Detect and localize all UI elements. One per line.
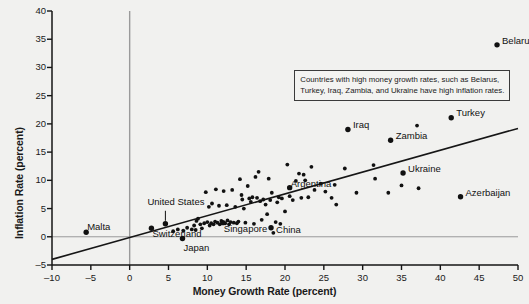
point-label-belarus: Belarus (502, 35, 529, 46)
data-point-33 (233, 205, 237, 209)
data-point-20 (214, 187, 218, 191)
y-tick-label-0: 0 (18, 231, 46, 242)
point-label-argentina: Argentina (291, 178, 332, 189)
data-point-73 (310, 165, 314, 169)
data-point-31 (230, 188, 234, 192)
point-label-malta: Malta (87, 221, 110, 232)
data-point-77 (330, 196, 334, 200)
data-point-53 (265, 212, 269, 216)
data-point-87 (417, 186, 421, 190)
point-label-iraq: Iraq (353, 119, 369, 130)
x-tick-label-5: 5 (149, 272, 189, 283)
data-point-ukraine (400, 170, 405, 175)
data-point-5 (192, 224, 196, 228)
x-tick-label-10: 10 (187, 272, 227, 283)
data-point-iraq (345, 127, 350, 132)
data-point-70 (302, 173, 306, 177)
y-tick-label-30: 30 (18, 61, 46, 72)
point-label-singapore: Singapore (224, 223, 267, 234)
x-tick-label-15: 15 (226, 272, 266, 283)
data-point-39 (242, 207, 246, 211)
data-point-85 (400, 184, 404, 188)
x-tick-label-0: 0 (110, 272, 150, 283)
y-tick-label-20: 20 (18, 118, 46, 129)
data-point-84 (386, 191, 390, 195)
data-point-66 (291, 198, 295, 202)
x-tick-label-40: 40 (420, 272, 460, 283)
data-point-china (268, 225, 273, 230)
y-tick-label-5: 5 (18, 203, 46, 214)
point-label-turkey: Turkey (456, 107, 485, 118)
y-tick-label-35: 35 (18, 33, 46, 44)
data-point-47 (255, 196, 259, 200)
data-point-48 (257, 170, 261, 174)
data-point-27 (225, 203, 229, 207)
data-point-zambia (388, 138, 393, 143)
data-point-63 (283, 209, 287, 213)
data-point-united-states (163, 221, 168, 226)
data-point-83 (373, 177, 377, 181)
data-point-56 (270, 191, 274, 195)
data-point-36 (238, 177, 242, 181)
data-point-8 (196, 217, 200, 221)
data-point-50 (260, 218, 264, 222)
point-label-switzerland: Switzerland (152, 228, 201, 239)
annotation-callout-box: Countries with high money growth rates, … (294, 70, 510, 102)
y-tick-label-15: 15 (18, 146, 46, 157)
point-label-china: China (276, 224, 301, 235)
data-point-38 (240, 198, 244, 202)
x-tick-label--5: –5 (71, 272, 111, 283)
data-point-57 (271, 231, 275, 235)
data-point-52 (264, 203, 268, 207)
data-point-78 (333, 183, 337, 187)
x-tick-label-45: 45 (459, 272, 499, 283)
data-point-86 (415, 124, 419, 128)
data-point-81 (355, 191, 359, 195)
data-point-17 (210, 202, 214, 206)
data-point-54 (267, 177, 271, 181)
data-point-62 (280, 196, 284, 200)
data-point-46 (254, 175, 258, 179)
y-tick-label--5: –5 (18, 259, 46, 270)
y-tick-label-40: 40 (18, 5, 46, 16)
data-point-72 (306, 195, 310, 199)
x-axis-title: Money Growth Rate (percent) (0, 285, 529, 297)
data-point-69 (299, 196, 303, 200)
point-label-azerbaijan: Azerbaijan (466, 187, 511, 198)
data-point-12 (204, 190, 208, 194)
data-point-14 (207, 205, 211, 209)
point-label-united-states: United States (147, 196, 204, 207)
x-tick-label-50: 50 (498, 272, 529, 283)
data-point-79 (334, 203, 338, 207)
point-label-zambia: Zambia (396, 130, 428, 141)
x-tick-label-30: 30 (343, 272, 383, 283)
data-point-37 (240, 193, 244, 197)
y-tick-label-10: 10 (18, 174, 46, 185)
data-point-64 (285, 163, 289, 167)
x-tick-label-20: 20 (265, 272, 305, 283)
x-tick-label--10: –10 (32, 272, 72, 283)
data-point-68 (297, 172, 301, 176)
data-point-65 (288, 194, 292, 198)
data-point-turkey (449, 115, 454, 120)
annotation-line-2: Turkey, Iraq, Zambia, and Ukraine have h… (300, 85, 504, 96)
data-point-76 (323, 190, 327, 194)
data-point-55 (268, 198, 272, 202)
data-point-9 (198, 222, 202, 226)
annotation-line-1: Countries with high money growth rates, … (300, 74, 504, 85)
data-point-belarus (494, 42, 499, 47)
data-point-43 (249, 200, 253, 204)
plot-area (0, 0, 529, 304)
x-tick-label-35: 35 (382, 272, 422, 283)
data-point-25 (222, 189, 226, 193)
point-label-ukraine: Ukraine (408, 163, 441, 174)
point-label-japan: Japan (183, 242, 209, 253)
regression-line (52, 128, 518, 259)
data-point-59 (275, 200, 279, 204)
data-point-azerbaijan (458, 194, 463, 199)
inflation-money-growth-scatter-chart: Inflation Rate (percent) Money Growth Ra… (0, 0, 529, 304)
data-point-51 (261, 198, 265, 202)
x-tick-label-25: 25 (304, 272, 344, 283)
data-point-82 (372, 163, 376, 167)
y-tick-label-25: 25 (18, 90, 46, 101)
